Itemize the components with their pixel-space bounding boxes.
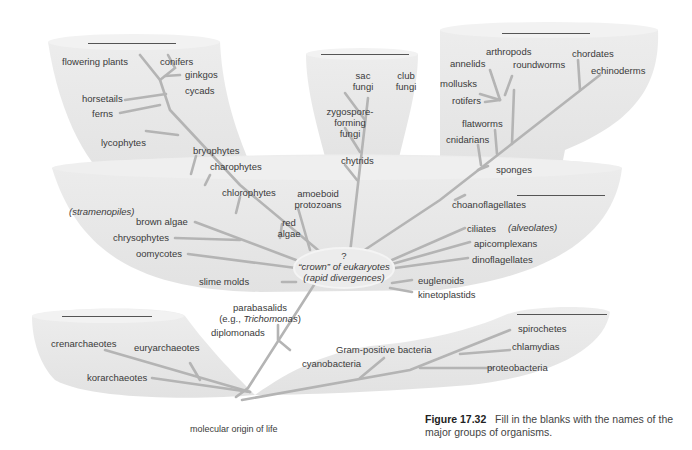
label-mollusks: mollusks [440, 78, 477, 89]
label-echinoderms: echinoderms [591, 65, 645, 76]
label-ferns: ferns [92, 108, 113, 119]
blank-plants[interactable] [88, 43, 176, 44]
label-alveolates: (alveolates) [508, 222, 557, 233]
label-spirochetes: spirochetes [518, 323, 567, 334]
blank-animals[interactable] [502, 33, 590, 34]
label-arthropods: arthropods [486, 46, 531, 57]
label-annelids: annelids [450, 58, 485, 69]
label-lycophytes: lycophytes [101, 137, 146, 148]
label-club-fungi: clubfungi [391, 70, 421, 92]
crown-line2: (rapid divergences) [296, 272, 392, 283]
figure-number: Figure 17.32 [425, 413, 486, 425]
label-amoeboid-protozoans: amoeboidprotozoans [288, 188, 348, 210]
label-horsetails: horsetails [82, 93, 123, 104]
figure-caption: Figure 17.32 Fill in the blanks with the… [425, 413, 692, 439]
blank-fungi[interactable] [321, 54, 409, 55]
label-cyanobacteria: cyanobacteria [302, 358, 361, 369]
phylogenetic-tree-diagram: flowering plants conifers ginkgos cycads… [0, 0, 692, 450]
label-brown-algae: brown algae [136, 216, 188, 227]
label-euryarchaeotes: euryarchaeotes [134, 342, 199, 353]
label-flowering-plants: flowering plants [62, 56, 128, 67]
label-korarchaeotes: korarchaeotes [87, 372, 147, 383]
label-chlamydias: chlamydias [512, 341, 560, 352]
label-oomycotes: oomycotes [136, 248, 182, 259]
label-flatworms: flatworms [462, 118, 503, 129]
label-kinetoplastids: kinetoplastids [418, 289, 476, 300]
label-euglenoids: euglenoids [418, 275, 464, 286]
label-sponges: sponges [496, 164, 532, 175]
label-diplomonads: diplomonads [211, 327, 265, 338]
label-conifers: conifers [160, 56, 193, 67]
label-stramenopiles: (stramenopiles) [69, 206, 134, 217]
label-rotifers: rotifers [452, 95, 481, 106]
blank-archaea[interactable] [62, 316, 152, 317]
crown-line1: “crown” of eukaryotes [296, 261, 392, 272]
label-ginkgos: ginkgos [185, 69, 218, 80]
label-chordates: chordates [572, 48, 614, 59]
label-slime-molds: slime molds [199, 276, 249, 287]
blank-bacteria[interactable] [517, 314, 607, 315]
label-ciliates: ciliates [467, 223, 496, 234]
label-dinoflagellates: dinoflagellates [472, 254, 533, 265]
label-chrysophytes: chrysophytes [113, 232, 169, 243]
blank-protists[interactable] [517, 195, 605, 196]
label-choanoflagellates: choanoflagellates [452, 199, 526, 210]
label-cycads: cycads [185, 85, 215, 96]
label-red-algae: redalgae [272, 217, 306, 239]
label-crenarchaeotes: crenarchaeotes [51, 338, 116, 349]
label-roundworms: roundworms [513, 59, 565, 70]
label-apicomplexans: apicomplexans [474, 238, 537, 249]
label-bryophytes: bryophytes [193, 145, 239, 156]
label-chytrids: chytrids [341, 155, 374, 166]
label-chlorophytes: chlorophytes [222, 187, 276, 198]
label-cnidarians: cnidarians [446, 134, 489, 145]
label-charophytes: charophytes [210, 161, 262, 172]
label-gram-positive: Gram-positive bacteria [336, 344, 432, 355]
crown-question: ? [296, 250, 392, 261]
crown-of-eukaryotes-node: ? “crown” of eukaryotes (rapid divergenc… [296, 250, 392, 283]
label-sac-fungi: sacfungi [348, 70, 378, 92]
label-parabasalids: parabasalids(e.g., Trichomonas) [214, 302, 306, 324]
label-origin-of-life: molecular origin of life [190, 424, 278, 435]
label-zygospore-fungi: zygospore-formingfungi [322, 106, 378, 139]
label-proteobacteria: proteobacteria [487, 362, 548, 373]
